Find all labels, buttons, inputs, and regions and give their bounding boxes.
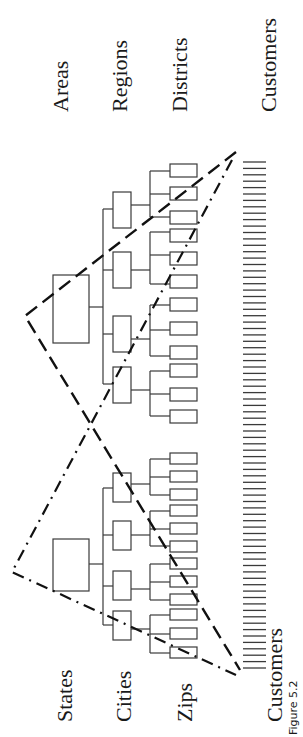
- district-box: [170, 364, 197, 377]
- region-box: [113, 367, 131, 403]
- district-box: [170, 298, 197, 311]
- figure-caption: Figure 5.2: [287, 680, 300, 735]
- zip-box: [170, 628, 197, 639]
- zip-box: [170, 523, 197, 534]
- label-zips: Zips: [172, 683, 197, 722]
- region-box: [113, 252, 131, 288]
- city-box: [113, 571, 131, 600]
- areas-scope-outline: [25, 152, 240, 670]
- label-districts: Districts: [167, 37, 192, 112]
- zip-box: [170, 609, 197, 620]
- label-regions: Regions: [107, 40, 132, 112]
- zip-box: [170, 489, 197, 500]
- zip-box: [170, 505, 197, 516]
- city-box: [113, 521, 131, 550]
- customer-bars: [243, 162, 266, 668]
- state-box: [53, 539, 89, 591]
- district-box: [170, 322, 197, 335]
- district-box: [170, 211, 197, 224]
- zip-box: [170, 541, 197, 552]
- label-states: States: [52, 669, 77, 722]
- district-box: [170, 164, 197, 177]
- city-box: [113, 611, 131, 640]
- region-box: [113, 316, 131, 352]
- zip-box: [170, 453, 197, 464]
- hierarchy-diagram: Areas Regions Districts Customers States…: [0, 0, 303, 737]
- district-box: [170, 410, 197, 423]
- district-box: [170, 252, 197, 265]
- label-customers-top: Customers: [256, 18, 281, 112]
- zip-box: [170, 647, 197, 658]
- areas-tree: [53, 164, 197, 423]
- area-box: [53, 275, 89, 343]
- label-areas: Areas: [48, 61, 73, 112]
- label-cities: Cities: [111, 671, 136, 722]
- region-box: [113, 192, 131, 228]
- district-box: [170, 275, 197, 288]
- zip-box: [170, 594, 197, 605]
- states-tree: [53, 453, 197, 658]
- zip-box: [170, 471, 197, 482]
- district-box: [170, 346, 197, 359]
- district-box: [170, 388, 197, 401]
